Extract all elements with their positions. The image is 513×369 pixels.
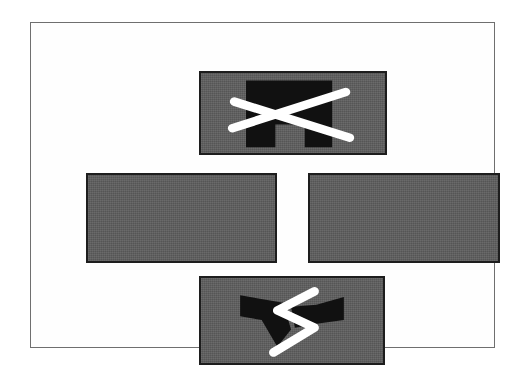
figure-root: Abstract cross-shaped arrangement of fou… bbox=[0, 0, 513, 369]
bowtie-left-wedge bbox=[240, 295, 291, 347]
figure-title: Abstract cross-shaped arrangement of fou… bbox=[31, 23, 32, 24]
panel-top bbox=[199, 71, 387, 155]
zigzag-stroke bbox=[273, 291, 314, 352]
top-panel-glyphs bbox=[201, 73, 385, 153]
outer-frame: Abstract cross-shaped arrangement of fou… bbox=[30, 22, 495, 348]
bottom-panel-glyphs bbox=[201, 278, 383, 363]
panel-bottom bbox=[199, 276, 385, 365]
x-cross-stroke-a bbox=[232, 92, 346, 128]
notched-block-shape bbox=[246, 81, 332, 148]
panel-left bbox=[86, 173, 277, 263]
x-cross-stroke-b bbox=[234, 102, 349, 138]
panel-right bbox=[308, 173, 500, 263]
bowtie-right-wedge bbox=[291, 297, 344, 328]
